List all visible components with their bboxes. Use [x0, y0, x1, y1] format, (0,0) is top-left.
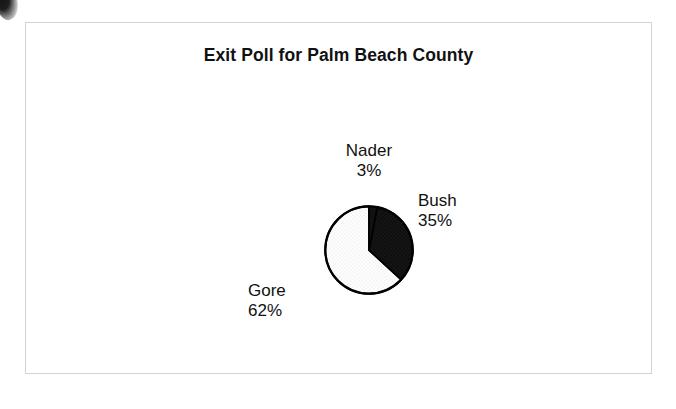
- pie-label-nader-percent: 3%: [323, 161, 415, 181]
- pie-chart-svg: [322, 203, 416, 297]
- page-title: Exit Poll for Palm Beach County: [26, 45, 651, 66]
- pie-label-gore-name: Gore: [248, 281, 286, 300]
- pie-label-nader: Nader 3%: [323, 141, 415, 180]
- pie-label-bush: Bush 35%: [418, 191, 457, 230]
- figure-frame: Exit Poll for Palm Beach County: [25, 22, 652, 374]
- pie-label-nader-name: Nader: [346, 141, 392, 160]
- pie-label-bush-name: Bush: [418, 191, 457, 210]
- scan-artifact: [0, 0, 23, 23]
- pie-label-bush-percent: 35%: [418, 211, 457, 231]
- pie-chart: [322, 203, 416, 297]
- pie-label-gore: Gore 62%: [248, 281, 286, 320]
- pie-label-gore-percent: 62%: [248, 301, 286, 321]
